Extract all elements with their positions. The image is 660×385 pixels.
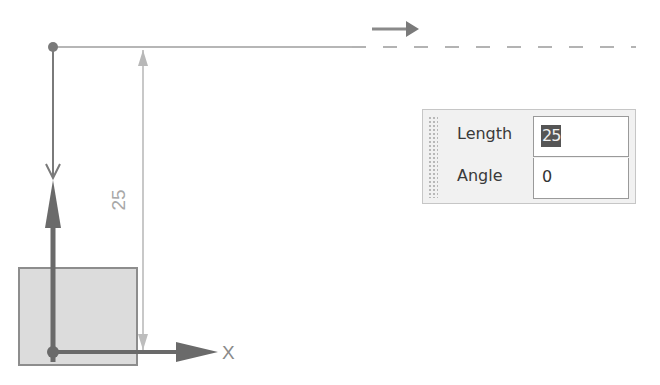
length-value-selected[interactable]: 25 (541, 125, 561, 147)
line-endpoint[interactable] (48, 42, 58, 52)
direction-arrow-icon (372, 21, 419, 37)
dimension-line (138, 50, 148, 350)
length-row: Length 25 (423, 116, 637, 157)
dynamic-input-panel: Length 25 Angle 0 (422, 109, 636, 204)
angle-label: Angle (457, 166, 503, 185)
length-label: Length (457, 124, 512, 143)
origin-point[interactable] (47, 346, 59, 358)
angle-row: Angle 0 (423, 158, 637, 199)
angle-input[interactable]: 0 (533, 158, 629, 199)
dimension-value-label[interactable]: 25 (107, 185, 131, 215)
angle-value[interactable]: 0 (542, 167, 552, 186)
length-input[interactable]: 25 (533, 116, 629, 157)
x-axis-label: X (222, 342, 235, 364)
